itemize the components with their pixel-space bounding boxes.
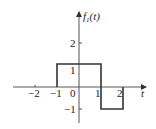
x-axis-label: t — [141, 87, 145, 99]
y-tick-label: −1 — [64, 103, 76, 115]
y-tick-label: 2 — [70, 37, 76, 49]
x-tick-label: 2 — [117, 87, 123, 99]
x-tick-label: −2 — [28, 87, 40, 99]
x-tick-label: 0 — [70, 87, 76, 99]
x-tick-label: −1 — [50, 87, 62, 99]
y-axis-label: f1(t) — [83, 10, 100, 24]
y-tick-label: 1 — [70, 64, 76, 76]
x-tick-label: 1 — [95, 87, 101, 99]
signal-plot: f1(t) t −2 −1 0 1 2 2 1 −1 — [0, 0, 156, 129]
